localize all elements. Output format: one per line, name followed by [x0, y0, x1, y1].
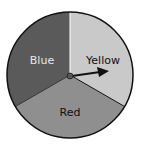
label-blue: Blue	[30, 54, 55, 67]
spinner-diagram: Blue Yellow Red	[0, 0, 142, 146]
label-red: Red	[60, 106, 81, 119]
label-yellow: Yellow	[85, 54, 120, 67]
